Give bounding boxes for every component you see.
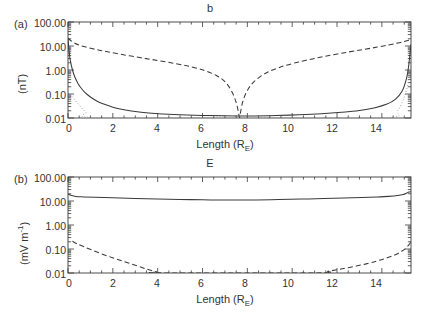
panel-a: (a) b (nT) 100.00 10.00 1.00 0.10 0.01 0…	[0, 0, 428, 160]
panel-b-plot	[0, 155, 428, 321]
panel-a-plot	[0, 0, 428, 160]
figure-container: (a) b (nT) 100.00 10.00 1.00 0.10 0.01 0…	[0, 0, 428, 321]
panel-b: (b) E (mV m-1) 100.00 10.00 1.00 0.10 0.…	[0, 155, 428, 321]
